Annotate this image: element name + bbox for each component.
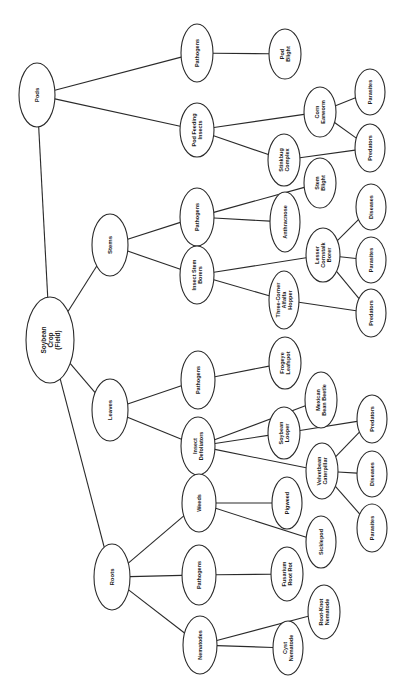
edge-leaves-pathogens-to-frogeye <box>215 366 269 377</box>
node-label-line: Pathogens <box>196 561 202 589</box>
node-label: Parasites <box>367 80 373 104</box>
edge-pods-to-pod-feeding <box>55 99 180 126</box>
node-label-line: Root Rot <box>287 562 293 585</box>
node-label-line: Predators <box>368 300 374 326</box>
node-label-line: Pathogens <box>195 366 201 394</box>
node-label: Pathogens <box>194 203 200 231</box>
node-pod-feeding: Pod FeedingInsects <box>180 103 214 157</box>
node-label-line: Nematode <box>324 599 330 626</box>
node-stems-pathogens: Pathogens <box>180 188 214 246</box>
node-label-line: Nematode <box>288 635 294 662</box>
node-pod-predators: Predators <box>355 124 385 172</box>
nodes-layer: SoybeanCrop(Field)PodsStemsLeavesRootsPa… <box>19 24 387 675</box>
edge-lesser-cornstalk-to-stem-predators <box>337 271 360 298</box>
node-stinkbug: StinkbugComplex <box>268 134 300 186</box>
edge-velvetbean-to-leaf-predators <box>336 432 360 457</box>
node-label-line: (Field) <box>54 330 62 350</box>
node-pods: Pods <box>19 63 55 127</box>
node-label-line: Diseases <box>368 195 374 219</box>
node-label: Leaves <box>107 399 113 420</box>
edge-pod-feeding-to-corn-earworm <box>214 114 304 127</box>
node-label-line: Diseases <box>369 462 375 486</box>
node-label-line: Predators <box>369 406 375 432</box>
node-nematodes: Nematodes <box>183 616 217 674</box>
node-label-line: Pathogens <box>194 203 200 231</box>
node-label: Nematodes <box>197 630 203 660</box>
node-label-line: Borers <box>197 266 203 284</box>
node-mexican-bean-beetle: MexicanBean Beetle <box>305 372 337 428</box>
node-label-line: Cornstalk <box>320 241 326 267</box>
node-label-line: Blight <box>285 46 291 62</box>
node-weeds: Weeds <box>182 474 216 532</box>
node-label-line: Stems <box>107 235 113 254</box>
edge-leaves-to-insect-defoliators <box>128 417 182 439</box>
node-leaf-predators: Predators <box>357 395 387 443</box>
node-label-line: Pod Feeding <box>191 114 197 147</box>
node-lesser-cornstalk: LesserCornstalkBorer <box>306 228 340 282</box>
edge-corn-earworm-to-pod-parasites <box>336 98 356 106</box>
edge-root-to-pods <box>39 127 48 297</box>
node-leaf-parasites: Parasites <box>357 504 387 552</box>
node-label: Root-KnotNematode <box>318 598 330 625</box>
node-label-line: Complex <box>284 147 290 171</box>
node-roots: Roots <box>94 544 130 610</box>
edge-stems-to-insect-stem-borers <box>128 251 181 269</box>
node-label-line: Soybean <box>278 421 284 445</box>
node-label-line: Root-Knot <box>318 598 324 625</box>
node-label-line: Pods <box>34 87 40 102</box>
node-three-corner: Three-CornerAlfalfaHopper <box>269 271 299 329</box>
node-soybean-looper: SoybeanLooper <box>268 407 300 459</box>
node-label: Stems <box>107 235 113 254</box>
node-anthracnose: Anthracnose <box>270 192 300 252</box>
node-label: FrogeyeLeafspot <box>279 351 291 374</box>
node-fusarium: FusariumRoot Rot <box>271 547 303 601</box>
edge-nematodes-to-cyst <box>217 646 273 648</box>
edge-three-corner-to-stem-predators <box>299 302 356 311</box>
node-label-line: Three-Corner <box>275 282 281 318</box>
node-leaves-pathogens: Pathogens <box>181 351 215 409</box>
node-stem-blight: StemBlight <box>304 158 336 208</box>
node-label-line: Defoliators <box>198 432 204 461</box>
node-leaves: Leaves <box>92 379 128 441</box>
edge-lesser-cornstalk-to-stem-diseases <box>337 220 358 241</box>
node-label-line: Frogeye <box>279 352 285 373</box>
node-stems: Stems <box>92 214 128 276</box>
diagram-canvas: SoybeanCrop(Field)PodsStemsLeavesRootsPa… <box>0 0 404 681</box>
node-label-line: Fusarium <box>281 562 287 587</box>
node-insect-stem-borers: Insect StemBorers <box>180 246 214 304</box>
node-label-line: Hopper <box>287 290 293 310</box>
node-stem-predators: Predators <box>356 289 386 337</box>
node-label-line: Corn <box>314 105 320 118</box>
node-label: Pods <box>34 87 40 102</box>
node-label: Predators <box>369 406 375 432</box>
node-label-line: Bean Beetle <box>321 384 327 416</box>
node-label-line: Leaves <box>107 399 113 420</box>
node-velvetbean: VelvetbeanCaterpillar <box>306 443 338 499</box>
node-label-line: Parasites <box>369 516 375 540</box>
node-label-line: Pod <box>279 49 285 59</box>
node-leaf-diseases: Diseases <box>357 451 387 497</box>
node-label-line: Leafspot <box>285 351 291 374</box>
node-pod-parasites: Parasites <box>355 69 385 115</box>
node-label-line: Insect Stem <box>191 259 197 290</box>
node-label: StinkbugComplex <box>278 147 290 171</box>
edge-stems-to-stems-pathogens <box>128 222 181 239</box>
edge-pods-to-pods-pathogens <box>55 57 181 90</box>
edge-stems-pathogens-to-anthracnose <box>214 218 270 221</box>
node-label-line: Parasites <box>367 80 373 104</box>
edge-roots-to-nematodes <box>129 590 185 633</box>
node-label: Predators <box>367 135 373 161</box>
edge-velvetbean-to-leaf-diseases <box>338 472 357 473</box>
node-label-line: Anthracnose <box>282 205 288 239</box>
node-root: SoybeanCrop(Field) <box>26 297 74 383</box>
edge-velvetbean-to-leaf-parasites <box>335 486 359 514</box>
node-label-line: Looper <box>284 423 290 442</box>
node-roots-pathogens: Pathogens <box>182 545 216 605</box>
edge-stinkbug-to-pod-predators <box>300 150 355 158</box>
node-sicklepod: Sicklepod <box>306 516 336 568</box>
soybean-crop-hierarchy-diagram: SoybeanCrop(Field)PodsStemsLeavesRootsPa… <box>0 0 404 681</box>
node-label: VelvetbeanCaterpillar <box>316 456 328 485</box>
node-pods-pathogens: Pathogens <box>181 24 213 82</box>
node-stem-parasites: Parasites <box>356 237 386 283</box>
node-label-line: Sicklepod <box>318 529 324 555</box>
